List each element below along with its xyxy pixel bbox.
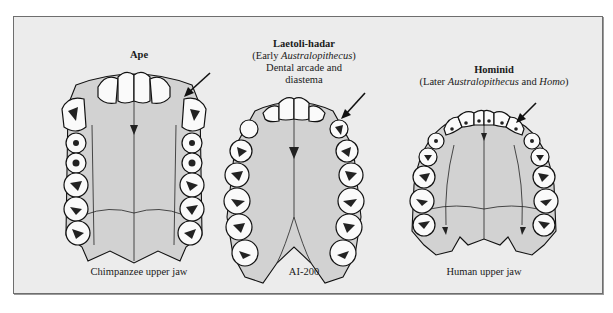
canine-arrow (516, 103, 536, 123)
incisors (98, 72, 170, 103)
laetoli-description-line2: diastema (224, 74, 384, 86)
incisors (263, 98, 325, 122)
genus-name: Australopithecus (448, 76, 519, 87)
laetoli-subheading: (Early Australopithecus) (224, 50, 384, 62)
hominid-subheading: (Later Australopithecus and Homo) (394, 76, 594, 88)
text: and (519, 76, 539, 87)
ape-caption: Chimpanzee upper jaw (59, 266, 219, 277)
hominid-heading: Hominid (Later Australopithecus and Homo… (394, 64, 594, 88)
chimpanzee-jaw-illustration (54, 65, 214, 265)
text: (Early (252, 50, 281, 61)
human-jaw-illustration (404, 105, 564, 265)
genus-name: Australopithecus (281, 50, 352, 61)
figure-frame: Ape Laetoli-hadar (Early Australopithecu… (13, 16, 603, 294)
laetoli-caption: AI-200 (244, 266, 364, 277)
laetoli-description-line1: Dental arcade and (224, 62, 384, 74)
hominid-caption: Human upper jaw (414, 266, 554, 277)
al-200-jaw-illustration (219, 87, 369, 287)
hominid-heading-text: Hominid (474, 64, 514, 75)
diastema-arrow (341, 93, 365, 119)
text: (Later (419, 76, 447, 87)
genus-name: Homo (539, 76, 565, 87)
text: ) (565, 76, 569, 87)
text: ) (352, 50, 356, 61)
ape-heading: Ape (94, 49, 184, 61)
laetoli-heading-text: Laetoli-hadar (273, 38, 335, 49)
ape-heading-text: Ape (130, 49, 148, 60)
laetoli-heading: Laetoli-hadar (Early Australopithecus) D… (224, 38, 384, 86)
